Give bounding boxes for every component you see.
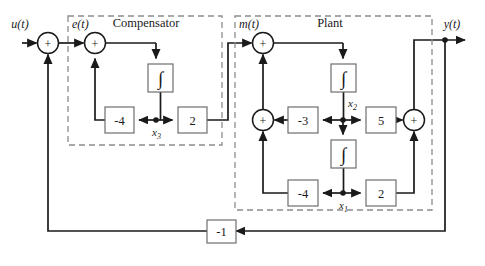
junction-dot-x1 [340,190,346,196]
summer-sign-control: + [260,37,267,51]
figure-canvas: + + + + + -4 2 -3 5 -4 2 -1 ∫ ∫ ∫ Compen… [0,0,485,266]
gain-label-plant-2: 2 [378,187,384,201]
gain-label-plant-neg4: -4 [298,187,309,201]
summer-sign-output: + [411,114,418,128]
summer-sign-error: + [92,37,99,51]
group-title-compensator: Compensator [113,16,180,30]
signal-label-error: e(t) [72,17,89,31]
state-label-x2: x2 [347,97,357,112]
signal-label-control: m(t) [239,17,259,31]
wire-plant-neg4-to-mid-sum [263,132,288,194]
state-label-x3: x3 [151,126,161,141]
group-title-plant: Plant [317,16,343,30]
gain-label-comp-2: 2 [189,114,195,128]
junction-dot-x3 [153,117,159,123]
wire-neg1-to-input-sum [48,55,207,232]
wire-2-to-plant-sum [207,43,252,120]
signal-label-input: u(t) [11,17,28,31]
junction-dot-y [442,37,448,43]
wire-output-to-y [414,40,465,110]
junction-dot-x2 [340,117,346,123]
summer-sign-input: + [45,37,52,51]
gain-label-feedback: -1 [216,225,226,239]
state-label-x1: x1 [338,199,348,214]
gain-label-plant-neg3: -3 [298,114,308,128]
summer-sign-plant-mid: + [260,114,267,128]
gain-label-comp-neg4: -4 [114,114,125,128]
block-diagram-svg: + + + + + -4 2 -3 5 -4 2 -1 ∫ ∫ ∫ Compen… [0,0,485,266]
gain-label-plant-5: 5 [378,114,384,128]
state-label-x3-sub: 3 [156,132,161,141]
wire-plant-2-to-output-sum [396,132,414,194]
state-label-x1-sub: 1 [344,205,348,214]
wire-neg4-to-error-sum [95,59,105,121]
state-label-x2-sub: 2 [353,103,357,112]
signal-label-output: y(t) [443,17,461,31]
